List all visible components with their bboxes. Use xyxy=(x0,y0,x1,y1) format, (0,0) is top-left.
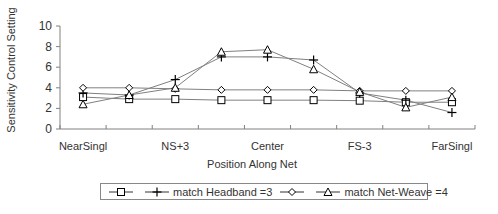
legend-item-square xyxy=(107,187,137,197)
square-marker xyxy=(356,97,363,104)
diamond-marker xyxy=(402,87,409,94)
x-tick-label: FarSingl xyxy=(431,140,472,152)
square-marker-icon xyxy=(107,187,135,197)
x-tick-label: FS-3 xyxy=(348,140,372,152)
legend-item-diamond xyxy=(278,187,308,197)
square-marker xyxy=(172,96,179,103)
y-axis: 0246810 xyxy=(39,19,60,136)
diamond-marker xyxy=(310,86,317,93)
markers-square xyxy=(80,94,456,106)
markers-plus xyxy=(79,52,457,117)
triangle-marker xyxy=(310,65,318,73)
diamond-marker xyxy=(218,86,225,93)
x-tick-label: NS+3 xyxy=(161,140,189,152)
square-marker xyxy=(310,97,317,104)
y-tick-label: 10 xyxy=(39,19,53,33)
line-chart: 0246810 NearSinglNS+3CenterFS-3FarSingl … xyxy=(0,0,498,214)
y-axis-title: Sensitivity Control Setting xyxy=(5,7,17,132)
y-axis-title-wrap: Sensitivity Control Setting xyxy=(2,0,20,140)
legend-label: match Headband =3 xyxy=(173,186,272,198)
legend-label: match Net-Weave =4 xyxy=(344,186,447,198)
y-tick-label: 4 xyxy=(45,81,52,95)
x-tick-label: Center xyxy=(251,140,284,152)
y-tick-label: 8 xyxy=(45,40,52,54)
legend-item-plus: match Headband =3 xyxy=(143,186,272,198)
x-tick-label: NearSingl xyxy=(59,140,107,152)
y-tick-label: 6 xyxy=(45,60,52,74)
y-tick-label: 0 xyxy=(45,122,52,136)
diamond-marker xyxy=(80,84,87,91)
y-tick-label: 2 xyxy=(45,101,52,115)
legend: match Headband =3 match Net-Weave =4 xyxy=(100,183,428,200)
series-layer xyxy=(79,46,457,117)
square-marker xyxy=(264,97,271,104)
square-marker xyxy=(218,97,225,104)
triangle-marker xyxy=(448,93,456,101)
triangle-marker-icon xyxy=(314,187,342,197)
legend-item-triangle: match Net-Weave =4 xyxy=(314,186,447,198)
x-axis-title: Position Along Net xyxy=(207,158,297,170)
plus-marker-icon xyxy=(143,187,171,197)
diamond-marker xyxy=(264,86,271,93)
x-axis: NearSinglNS+3CenterFS-3FarSingl xyxy=(59,125,475,152)
diamond-marker-icon xyxy=(278,187,306,197)
